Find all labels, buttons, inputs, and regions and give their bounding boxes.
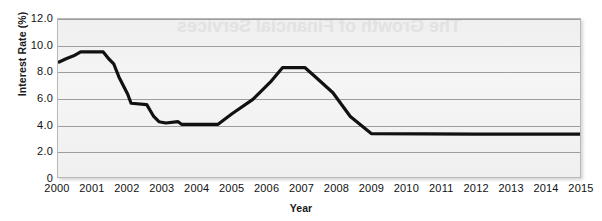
x-tick-2015: 2015 — [568, 182, 593, 194]
y-tick-4.0: 4.0 — [5, 119, 53, 131]
x-tick-2005: 2005 — [219, 182, 244, 194]
y-tick-2.0: 2.0 — [5, 145, 53, 157]
x-tick-2009: 2009 — [359, 182, 384, 194]
x-tick-2008: 2008 — [324, 182, 349, 194]
series-interest-rate — [58, 52, 580, 134]
x-tick-2001: 2001 — [79, 182, 104, 194]
line-series-svg — [58, 19, 580, 177]
x-tick-2003: 2003 — [149, 182, 174, 194]
x-tick-2013: 2013 — [498, 182, 523, 194]
x-tick-2011: 2011 — [429, 182, 453, 194]
y-tick-6.0: 6.0 — [5, 92, 53, 104]
x-tick-2000: 2000 — [44, 182, 69, 194]
x-tick-2010: 2010 — [394, 182, 419, 194]
chart-figure: Interest Rate (%) 02.04.06.08.010.012.0 … — [0, 0, 602, 221]
y-axis-tick-labels: 02.04.06.08.010.012.0 — [0, 18, 53, 178]
x-tick-2007: 2007 — [289, 182, 314, 194]
x-tick-2012: 2012 — [464, 182, 489, 194]
x-axis-title: Year — [0, 202, 602, 214]
x-tick-2014: 2014 — [533, 182, 558, 194]
y-tick-8.0: 8.0 — [5, 65, 53, 77]
y-tick-10.0: 10.0 — [5, 39, 53, 51]
x-tick-2002: 2002 — [114, 182, 139, 194]
x-axis-tick-labels: 2000200120022003200420052006200720082009… — [57, 182, 581, 198]
plot-area: The Growth of Financial Services — [57, 18, 581, 178]
x-tick-2004: 2004 — [184, 182, 209, 194]
y-tick-12.0: 12.0 — [5, 12, 53, 24]
x-tick-2006: 2006 — [254, 182, 279, 194]
